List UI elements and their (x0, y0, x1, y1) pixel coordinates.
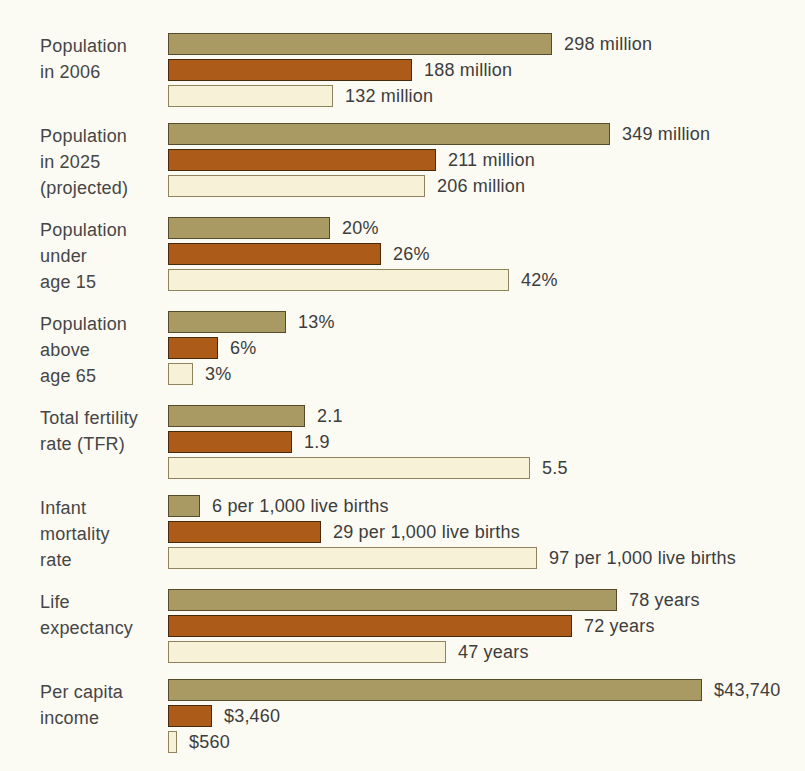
chart-group: Populationin 2006298 million188 million1… (40, 33, 805, 107)
bar-olive (168, 311, 286, 333)
bar-cream (168, 731, 177, 753)
bar-stack: 78 years72 years47 years (168, 589, 805, 663)
category-label-line: rate (40, 547, 168, 573)
bar-row: $560 (168, 731, 805, 753)
bar-olive (168, 405, 305, 427)
category-label-line: Population (40, 217, 168, 243)
bar-brown (168, 521, 321, 543)
bar-cream (168, 85, 333, 107)
bar-row: 20% (168, 217, 805, 239)
bar-cream (168, 175, 425, 197)
category-label: Populationin 2006 (40, 33, 168, 85)
category-label: Infantmortalityrate (40, 495, 168, 573)
category-label-line: Population (40, 311, 168, 337)
value-label: 29 per 1,000 live births (333, 522, 520, 543)
category-label-line: Population (40, 123, 168, 149)
chart-group: Per capitaincome$43,740$3,460$560 (40, 679, 805, 753)
bar-row: 6% (168, 337, 805, 359)
bar-olive (168, 495, 200, 517)
chart-group: Lifeexpectancy78 years72 years47 years (40, 589, 805, 663)
category-label-line: (projected) (40, 175, 168, 201)
bar-row: 5.5 (168, 457, 805, 479)
chart-group: Populationaboveage 6513%6%3% (40, 311, 805, 389)
bar-brown (168, 705, 212, 727)
bar-olive (168, 679, 702, 701)
category-label-line: above (40, 337, 168, 363)
bar-row: 2.1 (168, 405, 805, 427)
bar-row: 97 per 1,000 live births (168, 547, 805, 569)
value-label: 1.9 (304, 432, 330, 453)
bar-cream (168, 457, 530, 479)
category-label-line: expectancy (40, 615, 168, 641)
bar-row: 78 years (168, 589, 805, 611)
category-label: Populationunderage 15 (40, 217, 168, 295)
chart-group: Populationunderage 1520%26%42% (40, 217, 805, 295)
bar-row: 1.9 (168, 431, 805, 453)
value-label: 20% (342, 218, 379, 239)
bar-brown (168, 337, 218, 359)
bar-row: 6 per 1,000 live births (168, 495, 805, 517)
value-label: 188 million (424, 60, 512, 81)
value-label: 211 million (448, 150, 535, 171)
bar-cream (168, 269, 509, 291)
bar-row: 211 million (168, 149, 805, 171)
bar-brown (168, 149, 436, 171)
value-label: $3,460 (224, 706, 280, 727)
value-label: 2.1 (317, 406, 343, 427)
bar-row: 47 years (168, 641, 805, 663)
bar-row: 3% (168, 363, 805, 385)
category-label-line: under (40, 243, 168, 269)
bar-row: 29 per 1,000 live births (168, 521, 805, 543)
category-label-line: in 2025 (40, 149, 168, 175)
bar-row: $3,460 (168, 705, 805, 727)
value-label: 6 per 1,000 live births (212, 496, 389, 517)
chart-group: Total fertilityrate (TFR)2.11.95.5 (40, 405, 805, 479)
bar-cream (168, 547, 537, 569)
bar-row: 188 million (168, 59, 805, 81)
bar-olive (168, 589, 617, 611)
value-label: $560 (189, 732, 230, 753)
bar-row: $43,740 (168, 679, 805, 701)
bar-cream (168, 641, 446, 663)
value-label: $43,740 (714, 680, 780, 701)
category-label: Lifeexpectancy (40, 589, 168, 641)
bar-stack: 13%6%3% (168, 311, 805, 385)
bar-stack: 349 million211 million206 million (168, 123, 805, 197)
category-label-line: in 2006 (40, 59, 168, 85)
category-label-line: age 65 (40, 363, 168, 389)
bar-brown (168, 431, 292, 453)
value-label: 349 million (622, 124, 710, 145)
bar-row: 26% (168, 243, 805, 265)
category-label-line: age 15 (40, 269, 168, 295)
value-label: 72 years (584, 616, 655, 637)
category-label: Populationaboveage 65 (40, 311, 168, 389)
bar-stack: 6 per 1,000 live births29 per 1,000 live… (168, 495, 805, 569)
bar-row: 42% (168, 269, 805, 291)
category-label-line: Population (40, 33, 168, 59)
bar-row: 13% (168, 311, 805, 333)
bar-row: 298 million (168, 33, 805, 55)
bar-olive (168, 217, 330, 239)
bar-row: 132 million (168, 85, 805, 107)
category-label-line: Total fertility (40, 405, 168, 431)
bar-row: 206 million (168, 175, 805, 197)
value-label: 78 years (629, 590, 700, 611)
category-label-line: mortality (40, 521, 168, 547)
value-label: 47 years (458, 642, 529, 663)
bar-cream (168, 363, 193, 385)
category-label: Total fertilityrate (TFR) (40, 405, 168, 457)
bar-row: 72 years (168, 615, 805, 637)
value-label: 26% (393, 244, 430, 265)
category-label: Per capitaincome (40, 679, 168, 731)
value-label: 6% (230, 338, 256, 359)
value-label: 13% (298, 312, 335, 333)
category-label-line: Per capita (40, 679, 168, 705)
category-label: Populationin 2025(projected) (40, 123, 168, 201)
category-label-line: Infant (40, 495, 168, 521)
chart-group: Infantmortalityrate6 per 1,000 live birt… (40, 495, 805, 573)
value-label: 5.5 (542, 458, 568, 479)
value-label: 206 million (437, 176, 525, 197)
bar-brown (168, 243, 381, 265)
value-label: 42% (521, 270, 558, 291)
value-label: 132 million (345, 86, 433, 107)
